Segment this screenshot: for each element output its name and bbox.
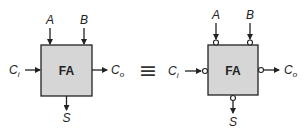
right-input-ci-label: Ci (168, 64, 179, 80)
right-output-co-label: Co (284, 63, 298, 79)
right-output-co-bubble (259, 68, 264, 73)
right-full-adder: FA A B Ci Co S (168, 8, 298, 128)
left-fa-label: FA (59, 64, 75, 78)
right-output-s-bubble (231, 96, 236, 101)
right-input-b-label: B (246, 8, 254, 22)
equivalence-symbol: ≡ (139, 58, 157, 83)
right-input-a-label: A (211, 8, 220, 22)
right-input-a-bubble (214, 40, 219, 45)
right-fa-label: FA (225, 64, 241, 78)
right-input-b-bubble (248, 40, 253, 45)
left-input-a-label: A (45, 13, 54, 27)
left-input-b-label: B (80, 13, 88, 27)
right-input-ci-bubble (203, 69, 208, 74)
full-adder-equivalence-diagram: FA A B Ci Co S ≡ FA A B Ci Co (0, 0, 308, 128)
left-output-s-label: S (62, 111, 70, 125)
right-output-s-label: S (229, 115, 237, 128)
left-output-co-label: Co (111, 63, 125, 79)
left-input-ci-label: Ci (9, 63, 20, 79)
left-full-adder: FA A B Ci Co S (9, 13, 125, 125)
diagram-canvas: FA A B Ci Co S ≡ FA A B Ci Co (0, 0, 308, 128)
